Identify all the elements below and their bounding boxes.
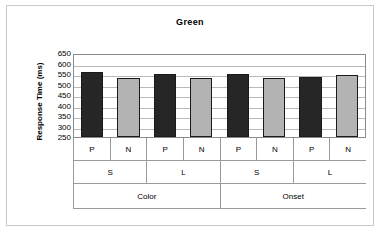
bar[interactable]	[336, 75, 358, 137]
x-label-probe-type: P	[221, 138, 258, 160]
y-tick-label: 500	[45, 82, 71, 90]
x-label-duration: S	[74, 161, 147, 183]
plot-area	[73, 54, 366, 138]
bar-slot	[292, 55, 328, 137]
x-label-condition: Onset	[221, 184, 367, 208]
x-axis-row-probe-type: PNPNPNPN	[73, 138, 366, 161]
bar[interactable]	[117, 78, 139, 137]
y-tick-label: 600	[45, 61, 71, 69]
bar[interactable]	[263, 78, 285, 137]
bar-slot	[220, 55, 256, 137]
x-axis-row-condition: ColorOnset	[73, 184, 366, 209]
bar-slot	[256, 55, 292, 137]
x-label-duration: L	[147, 161, 220, 183]
y-tick-label: 300	[45, 124, 71, 132]
x-label-probe-type: N	[111, 138, 148, 160]
bar[interactable]	[227, 74, 249, 137]
y-tick-label: 350	[45, 113, 71, 121]
y-tick-label: 400	[45, 103, 71, 111]
x-label-probe-type: P	[74, 138, 111, 160]
x-label-probe-type: P	[147, 138, 184, 160]
bar-slot	[147, 55, 183, 137]
x-label-probe-type: N	[184, 138, 221, 160]
y-tick-label: 450	[45, 92, 71, 100]
y-tick-label: 250	[45, 134, 71, 142]
bar-slot	[74, 55, 110, 137]
y-tick-label: 550	[45, 71, 71, 79]
x-axis-row-duration: SLSL	[73, 161, 366, 184]
x-label-duration: S	[221, 161, 294, 183]
x-label-duration: L	[294, 161, 366, 183]
bar-series	[74, 55, 365, 137]
x-label-probe-type: N	[257, 138, 294, 160]
y-axis-title: Response Time (ms)	[35, 47, 44, 157]
y-tick-label: 650	[45, 50, 71, 58]
bar-slot	[110, 55, 146, 137]
bar-slot	[183, 55, 219, 137]
chart-title: Green	[7, 17, 373, 27]
bar[interactable]	[154, 74, 176, 137]
x-label-condition: Color	[74, 184, 221, 208]
y-axis-tick-labels: 650600550500450400350300250	[45, 50, 71, 142]
x-label-probe-type: P	[294, 138, 331, 160]
chart-frame: Green Response Time (ms) 650600550500450…	[6, 5, 374, 226]
bar[interactable]	[299, 77, 321, 137]
bar[interactable]	[190, 78, 212, 137]
bar[interactable]	[81, 72, 103, 137]
x-label-probe-type: N	[330, 138, 366, 160]
bar-slot	[329, 55, 365, 137]
